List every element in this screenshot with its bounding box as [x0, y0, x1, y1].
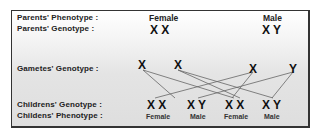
gamete-male-y: Y: [289, 62, 297, 76]
gamete-female-1: X: [138, 58, 146, 72]
gamete-male-x: X: [249, 62, 257, 76]
gamete-female-2: X: [174, 58, 182, 72]
child-2-phenotype: Male: [190, 113, 206, 120]
child-3-genotype: X X: [225, 98, 244, 112]
child-4-genotype: X Y: [262, 98, 281, 112]
child-1-genotype: X X: [147, 98, 166, 112]
child-2-genotype: X Y: [187, 98, 206, 112]
child-1-phenotype: Female: [146, 113, 170, 120]
child-3-phenotype: Female: [224, 113, 248, 120]
child-4-phenotype: Male: [264, 113, 280, 120]
